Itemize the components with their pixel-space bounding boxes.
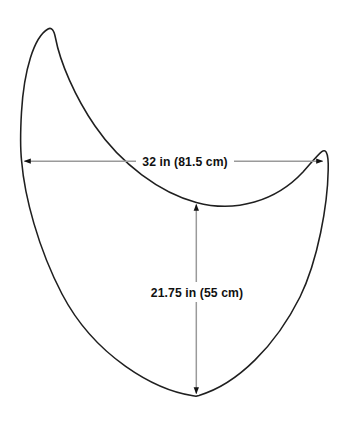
diagram-canvas: 32 in (81.5 cm) 21.75 in (55 cm) [0, 0, 347, 429]
crescent-bib-outline [21, 28, 329, 396]
shape-outline-group [21, 28, 329, 396]
height-dimension-label: 21.75 in (55 cm) [151, 286, 243, 300]
width-dimension-label: 32 in (81.5 cm) [142, 155, 228, 169]
dimensioned-shape-drawing: 32 in (81.5 cm) 21.75 in (55 cm) [0, 0, 347, 429]
